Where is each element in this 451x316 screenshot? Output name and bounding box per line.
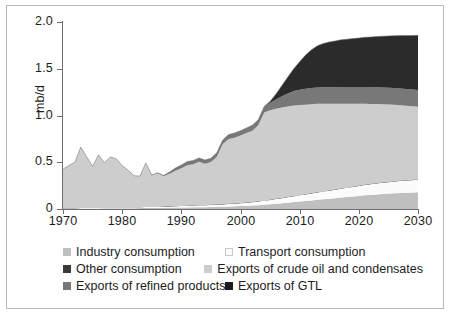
- legend-label: Exports of GTL: [238, 279, 322, 293]
- x-tick-label: 2000: [216, 214, 266, 228]
- y-tick: [57, 69, 62, 70]
- chart-legend: Industry consumption Transport consumpti…: [63, 243, 423, 294]
- y-tick-label: 2.0: [0, 14, 53, 28]
- y-tick-label: 0.5: [0, 154, 53, 168]
- legend-swatch-exports-gtl: [225, 282, 233, 290]
- y-tick: [57, 162, 62, 163]
- legend-label: Transport consumption: [238, 245, 365, 259]
- y-tick-label: 1.0: [0, 108, 53, 122]
- legend-swatch-exports-crude-oil-condensates: [204, 265, 212, 273]
- x-tick-label: 1970: [38, 214, 88, 228]
- y-axis-line: [62, 21, 63, 210]
- legend-item-exports-crude-oil-condensates[interactable]: Exports of crude oil and condensates: [204, 262, 423, 276]
- x-tick-label: 2030: [393, 214, 443, 228]
- legend-label: Other consumption: [76, 262, 182, 276]
- y-tick-label: 1.5: [0, 61, 53, 75]
- plot-area: [63, 22, 418, 209]
- legend-row: Other consumption Exports of crude oil a…: [63, 260, 423, 277]
- x-tick-label: 2020: [334, 214, 384, 228]
- legend-row: Industry consumption Transport consumpti…: [63, 243, 423, 260]
- legend-item-industry-consumption[interactable]: Industry consumption: [63, 245, 225, 259]
- x-tick-label: 1980: [97, 214, 147, 228]
- x-tick-label: 1990: [156, 214, 206, 228]
- legend-row: Exports of refined products Exports of G…: [63, 277, 423, 294]
- x-tick-label: 2010: [275, 214, 325, 228]
- chart-figure: mb/d 2.01.51.00.50 197019801990200020102…: [0, 0, 451, 316]
- legend-label: Exports of refined products: [76, 279, 225, 293]
- legend-swatch-industry-consumption: [63, 248, 71, 256]
- legend-swatch-exports-refined-products: [63, 282, 71, 290]
- y-tick-label: 0: [0, 201, 53, 215]
- legend-swatch-other-consumption: [63, 265, 71, 273]
- legend-item-exports-refined-products[interactable]: Exports of refined products: [63, 279, 225, 293]
- legend-item-exports-gtl[interactable]: Exports of GTL: [225, 279, 322, 293]
- legend-label: Industry consumption: [76, 245, 195, 259]
- y-tick: [57, 22, 62, 23]
- stacked-area-series: [63, 22, 418, 209]
- legend-swatch-transport-consumption: [225, 248, 233, 256]
- y-tick: [57, 209, 62, 210]
- y-tick: [57, 116, 62, 117]
- legend-label: Exports of crude oil and condensates: [217, 262, 423, 276]
- legend-item-transport-consumption[interactable]: Transport consumption: [225, 245, 365, 259]
- legend-item-other-consumption[interactable]: Other consumption: [63, 262, 204, 276]
